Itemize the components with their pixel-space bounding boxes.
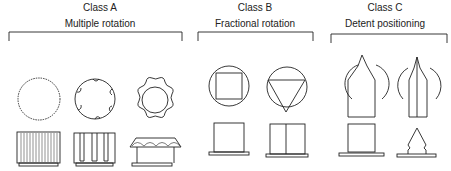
class-b-bracket (198, 32, 313, 41)
ridged-pointer-knob-side (397, 128, 436, 157)
class-c-bracket (331, 34, 447, 43)
fine-knurled-knob-side (17, 132, 60, 166)
scalloped-knob-top (75, 79, 115, 119)
square-insert-knob-top (209, 66, 249, 106)
scalloped-knob-side (74, 133, 115, 166)
fine-knurled-knob-top (18, 78, 60, 120)
lobed-knob-top (138, 78, 173, 118)
pointer-knob-top (345, 55, 389, 117)
pointer-knob-side (339, 124, 384, 156)
triangle-insert-knob-top (267, 67, 307, 112)
ridged-pointer-knob-top (398, 57, 441, 117)
knob-classification-diagram (0, 0, 451, 171)
triangle-insert-knob-side (266, 124, 308, 157)
class-a-bracket (9, 32, 182, 41)
lobed-knob-side (130, 138, 181, 166)
square-insert-knob-side (209, 123, 249, 155)
